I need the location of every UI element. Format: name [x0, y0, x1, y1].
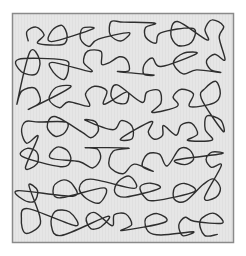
- quilt-panel: [13, 14, 234, 243]
- stipple-pattern-figure: [0, 0, 246, 256]
- pattern-canvas: [0, 0, 246, 256]
